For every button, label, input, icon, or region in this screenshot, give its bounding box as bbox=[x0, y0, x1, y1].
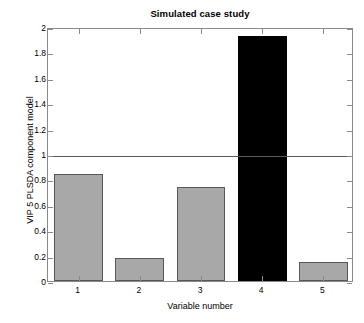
x-tick-top-4 bbox=[262, 29, 263, 34]
bar-variable-3 bbox=[177, 187, 226, 281]
y-tick-1.6 bbox=[48, 80, 53, 81]
y-axis-title: VIP 5 PLSDA component model bbox=[25, 10, 35, 310]
reference-line-y1 bbox=[48, 156, 352, 157]
y-tick-right-1.2 bbox=[347, 131, 352, 132]
y-tick-0.8 bbox=[48, 181, 53, 182]
x-tick-top-1 bbox=[79, 29, 80, 34]
x-tick-label-1: 1 bbox=[63, 285, 93, 295]
plot-area bbox=[47, 28, 353, 282]
bar-variable-4 bbox=[238, 36, 287, 281]
y-tick-right-1.4 bbox=[347, 105, 352, 106]
y-tick-right-2 bbox=[347, 29, 352, 30]
x-tick-2 bbox=[140, 276, 141, 281]
y-tick-right-1.6 bbox=[347, 80, 352, 81]
y-tick-1.4 bbox=[48, 105, 53, 106]
chart-title: Simulated case study bbox=[47, 8, 353, 19]
y-tick-right-0.6 bbox=[347, 207, 352, 208]
x-tick-1 bbox=[79, 276, 80, 281]
x-axis-title: Variable number bbox=[47, 301, 353, 311]
y-tick-right-0.4 bbox=[347, 232, 352, 233]
bar-variable-1 bbox=[54, 174, 103, 281]
y-tick-right-1.8 bbox=[347, 54, 352, 55]
y-tick-right-0.2 bbox=[347, 258, 352, 259]
x-tick-top-3 bbox=[201, 29, 202, 34]
x-tick-label-4: 4 bbox=[246, 285, 276, 295]
y-tick-right-0 bbox=[347, 283, 352, 284]
chart-figure: Simulated case study 00.20.40.60.811.21.… bbox=[0, 0, 364, 323]
x-tick-4 bbox=[262, 276, 263, 281]
y-tick-1.2 bbox=[48, 131, 53, 132]
x-tick-5 bbox=[323, 276, 324, 281]
y-tick-0.4 bbox=[48, 232, 53, 233]
y-tick-right-1 bbox=[347, 156, 352, 157]
y-tick-0 bbox=[48, 283, 53, 284]
x-tick-top-5 bbox=[323, 29, 324, 34]
y-tick-0.6 bbox=[48, 207, 53, 208]
y-tick-0.2 bbox=[48, 258, 53, 259]
y-tick-2 bbox=[48, 29, 53, 30]
y-tick-1 bbox=[48, 156, 53, 157]
x-tick-3 bbox=[201, 276, 202, 281]
y-tick-right-0.8 bbox=[347, 181, 352, 182]
y-tick-1.8 bbox=[48, 54, 53, 55]
x-tick-top-2 bbox=[140, 29, 141, 34]
x-tick-label-5: 5 bbox=[307, 285, 337, 295]
x-tick-label-2: 2 bbox=[124, 285, 154, 295]
x-tick-label-3: 3 bbox=[185, 285, 215, 295]
